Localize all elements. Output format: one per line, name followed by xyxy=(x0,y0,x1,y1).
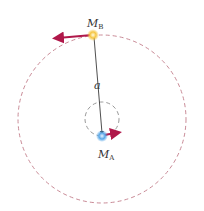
orbit-b xyxy=(18,35,186,203)
label-separation: a xyxy=(94,79,101,92)
binary-orbit-diagram: MB a MA xyxy=(0,0,204,211)
star-b-icon xyxy=(87,29,99,41)
star-a-icon xyxy=(96,130,108,142)
label-mass-b: MB xyxy=(86,17,103,31)
label-mass-a: MA xyxy=(97,148,115,162)
